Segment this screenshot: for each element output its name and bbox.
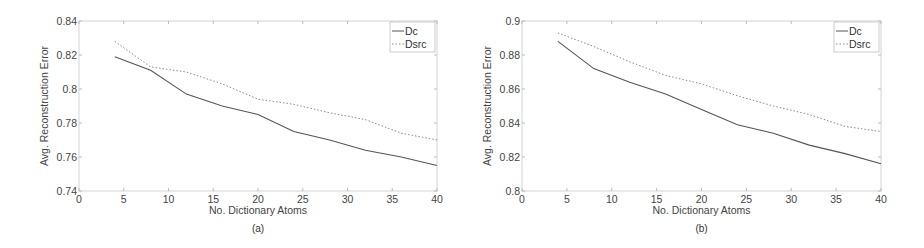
legend-label-dc: Dc	[405, 25, 418, 37]
y-tick-label: 0.8	[505, 185, 520, 197]
figure-caption: (a)	[252, 223, 264, 234]
series-line-dc	[115, 57, 437, 166]
x-tick-label: 40	[875, 193, 887, 205]
plot-area	[522, 21, 881, 191]
x-tick-label: 10	[163, 193, 175, 205]
y-tick-label: 0.78	[57, 117, 78, 129]
x-axis-label: No. Dictionary Atoms	[652, 204, 750, 216]
x-tick-label: 10	[606, 193, 618, 205]
legend-label-dsrc: Dsrc	[405, 38, 427, 50]
x-tick-label: 35	[386, 193, 398, 205]
legend-label-dc: Dc	[849, 25, 862, 37]
x-tick-label: 40	[431, 193, 443, 205]
chart-a: 05101520253035400.740.760.780.80.820.84N…	[38, 15, 443, 234]
y-tick-label: 0.8	[62, 83, 77, 95]
y-tick-label: 0.9	[505, 15, 520, 27]
y-tick-label: 0.74	[57, 185, 78, 197]
y-axis-label: Avg. Reconstruction Error	[38, 45, 50, 166]
y-tick-label: 0.76	[57, 151, 78, 163]
y-tick-label: 0.84	[57, 15, 78, 27]
x-tick-label: 30	[342, 193, 354, 205]
y-tick-label: 0.88	[500, 49, 521, 61]
x-tick-label: 5	[121, 193, 127, 205]
y-tick-label: 0.86	[500, 83, 521, 95]
series-line-dc	[558, 41, 881, 163]
y-tick-label: 0.82	[57, 49, 78, 61]
plot-area	[79, 21, 437, 191]
figure-caption: (b)	[695, 223, 707, 234]
x-tick-label: 5	[564, 193, 570, 205]
y-tick-label: 0.84	[500, 117, 521, 129]
x-axis-label: No. Dictionary Atoms	[209, 204, 307, 216]
y-tick-label: 0.82	[500, 151, 521, 163]
x-tick-label: 30	[785, 193, 797, 205]
series-line-dsrc	[115, 41, 437, 140]
chart-b: 05101520253035400.80.820.840.860.880.9No…	[481, 15, 887, 234]
y-axis-label: Avg. Reconstruction Error	[481, 45, 493, 166]
x-tick-label: 35	[830, 193, 842, 205]
figure: 05101520253035400.740.760.780.80.820.84N…	[0, 0, 924, 248]
legend-label-dsrc: Dsrc	[849, 38, 871, 50]
